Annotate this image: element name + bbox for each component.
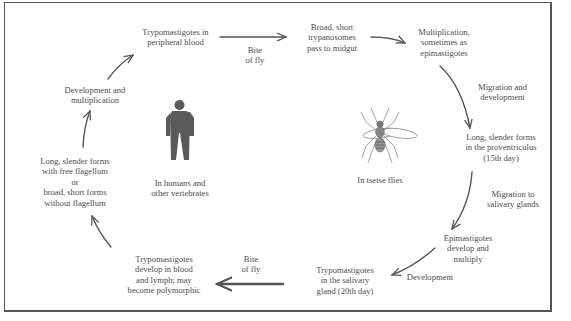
arrow-s8-s9 bbox=[83, 111, 90, 147]
arrow-s4-s5 bbox=[452, 172, 472, 229]
tsetse-fly-icon bbox=[361, 108, 418, 163]
arrow-s9-s1 bbox=[108, 55, 133, 79]
arrow-s5-s6 bbox=[392, 248, 435, 275]
transition-bite-of-fly-top: Bite of fly bbox=[235, 45, 275, 66]
stage-broad-short-midgut: Broad, short trypanosomes pass to midgut bbox=[294, 22, 370, 53]
transition-migration-salivary: Migration to salivary glands bbox=[478, 189, 548, 210]
stage-development-multiplication: Development and multiplication bbox=[55, 85, 135, 106]
stage-trypomastigotes-peripheral-blood: Trypomastigotes in peripheral blood bbox=[133, 27, 218, 48]
stage-trypomastigotes-blood-lymph: Trypomastigotes develop in blood and lym… bbox=[115, 254, 213, 296]
arrow-s2-s3 bbox=[371, 37, 405, 43]
stage-multiplication-epimastigotes: Multiplication, sometimes as epimastigot… bbox=[405, 27, 483, 58]
stage-long-slender-proventriculus: Long, slender forms in the proventriculu… bbox=[453, 132, 549, 163]
host-label-vertebrates: In humans and other vertebrates bbox=[140, 178, 220, 199]
host-label-tsetse: In tsetse flies bbox=[345, 175, 415, 185]
stage-trypomastigotes-salivary-gland: Trypomastigotes in the salivary gland (2… bbox=[307, 265, 383, 296]
transition-bite-of-fly-bottom: Bite of fly bbox=[231, 254, 271, 275]
transition-development: Development bbox=[400, 272, 460, 282]
stage-long-slender-or-broad-short: Long, slender forms with free flagellum … bbox=[28, 156, 122, 208]
transition-migration-development: Migration and development bbox=[465, 82, 540, 103]
human-silhouette-icon bbox=[166, 100, 194, 160]
arrow-s7-s8 bbox=[92, 216, 111, 247]
stage-epimastigotes-develop-multiply: Epimastigotes develop and multiply bbox=[432, 233, 504, 264]
